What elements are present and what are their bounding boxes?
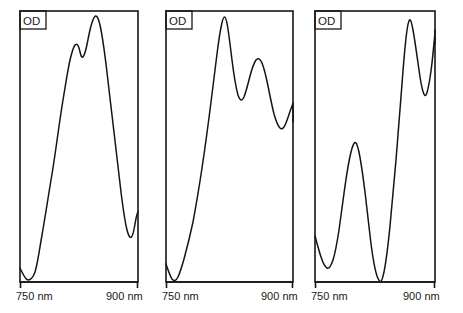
panel-3-tick-label-right: 900 nm — [403, 290, 440, 302]
panel-2-od-label: OD — [169, 15, 186, 27]
panel-1-tick-label-left: 750 nm — [16, 290, 53, 302]
panel-2-tick-label-left: 750 nm — [162, 290, 199, 302]
figure-background — [0, 0, 463, 313]
panel-3-od-label: OD — [318, 15, 335, 27]
panel-1-od-label: OD — [23, 15, 40, 27]
panel-2-tick-label-right: 900 nm — [261, 290, 298, 302]
panel-1-tick-label-right: 900 nm — [106, 290, 143, 302]
spectra-figure: OD 750 nm 900 nm OD 750 nm 900 nm OD 750… — [0, 0, 463, 313]
panel-3-tick-label-left: 750 nm — [311, 290, 348, 302]
